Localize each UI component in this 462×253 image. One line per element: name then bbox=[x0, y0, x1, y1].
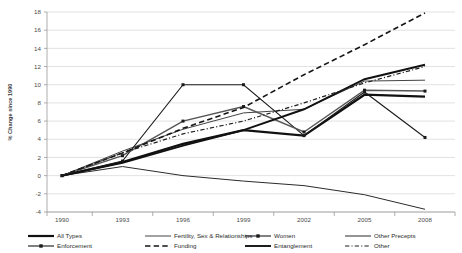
legend-label-all-types: All Types bbox=[57, 232, 82, 239]
legend-marker-women bbox=[256, 234, 259, 237]
y-tick-label: 4 bbox=[38, 135, 42, 142]
x-tick-label: 1993 bbox=[116, 216, 130, 223]
data-point-marker bbox=[424, 90, 427, 93]
legend-label-fertility-sex-relationships: Fertility, Sex & Relationships bbox=[174, 232, 252, 239]
y-tick-label: 8 bbox=[38, 99, 42, 106]
legend-label-entanglement: Entanglement bbox=[274, 242, 312, 249]
y-tick-label: 2 bbox=[38, 154, 42, 161]
x-tick-label: 1996 bbox=[176, 216, 190, 223]
data-point-marker bbox=[303, 134, 306, 137]
data-point-marker bbox=[363, 89, 366, 92]
data-point-marker bbox=[303, 131, 306, 134]
legend-label-other-precepts: Other Precepts bbox=[374, 232, 416, 239]
data-point-marker bbox=[182, 120, 185, 123]
y-tick-label: 0 bbox=[38, 172, 42, 179]
y-axis-title: % Change since 1990 bbox=[7, 84, 13, 141]
x-tick-label: 2002 bbox=[297, 216, 311, 223]
y-tick-label: -2 bbox=[35, 190, 41, 197]
x-tick-label: 2005 bbox=[358, 216, 372, 223]
chart-container: -4-2024681012141618 19901993199619992002… bbox=[0, 0, 462, 253]
legend-label-funding: Funding bbox=[174, 242, 197, 249]
chart-background bbox=[0, 0, 462, 253]
y-tick-label: 12 bbox=[34, 63, 41, 70]
data-point-marker bbox=[242, 83, 245, 86]
legend-marker-enforcement bbox=[39, 244, 42, 247]
legend-label-women: Women bbox=[274, 232, 296, 239]
y-tick-label: 18 bbox=[34, 8, 41, 15]
data-point-marker bbox=[121, 154, 124, 157]
data-point-marker bbox=[182, 83, 185, 86]
x-tick-label: 2008 bbox=[418, 216, 432, 223]
y-tick-label: 14 bbox=[34, 45, 41, 52]
y-tick-label: -4 bbox=[35, 208, 41, 215]
x-tick-label: 1990 bbox=[55, 216, 69, 223]
y-tick-label: 6 bbox=[38, 117, 42, 124]
y-tick-label: 10 bbox=[34, 81, 41, 88]
line-chart: -4-2024681012141618 19901993199619992002… bbox=[0, 0, 462, 253]
x-tick-label: 1999 bbox=[237, 216, 251, 223]
y-tick-label: 16 bbox=[34, 26, 41, 33]
legend-label-enforcement: Enforcement bbox=[57, 242, 92, 249]
data-point-marker bbox=[424, 136, 427, 139]
legend-label-other: Other bbox=[374, 242, 389, 249]
